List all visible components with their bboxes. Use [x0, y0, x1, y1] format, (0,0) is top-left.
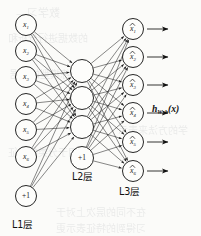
connection-edge [34, 32, 72, 63]
edges-input-to-hidden [30, 32, 76, 188]
connection-edge [34, 107, 74, 149]
output-arrows [147, 29, 168, 171]
hypothesis-subscript: W, b [157, 109, 168, 115]
node-label: +1 [22, 191, 30, 200]
connection-edge [36, 81, 70, 94]
node-y4: x4 [123, 103, 144, 124]
autoencoder-diagram: 数学习—的数据进行分析和训练模型的数据学的方法来表示用于分类的特征在不同的层次上… [0, 0, 201, 236]
node-y5: x5 [123, 132, 144, 153]
node-x5: x5 [16, 120, 37, 141]
node-h2 [71, 87, 94, 110]
node-b2: +1 [71, 147, 94, 170]
connection-edge [91, 36, 124, 63]
node-h3 [71, 116, 94, 139]
connection-edge [36, 55, 70, 67]
connection-edge [91, 92, 124, 119]
connection-edge [93, 146, 121, 155]
connection-edge [31, 35, 76, 116]
hypothesis-text: hW, b(x) [152, 103, 179, 115]
node-x4: x4 [16, 94, 37, 115]
layer-label-l1: L1层 [12, 219, 33, 230]
connection-edge [93, 130, 121, 138]
connection-edge [89, 66, 126, 117]
node-y6: x6 [123, 161, 144, 182]
node-label: +1 [78, 153, 86, 162]
node-y3: x3 [123, 75, 144, 96]
connection-edge [33, 137, 74, 188]
connection-edge [93, 60, 121, 68]
node-subscript: 1 [134, 29, 136, 34]
node-subscript: 1 [27, 25, 29, 30]
node-y2: x2 [123, 47, 144, 68]
hypothesis-label: hW, b(x) [152, 103, 179, 115]
node-x1: x1 [16, 15, 37, 36]
node-b1: +1 [16, 186, 37, 207]
node-x6: x6 [16, 147, 37, 168]
connection-edge [34, 80, 74, 122]
connection-edge [89, 81, 126, 133]
node-y1: x1 [123, 19, 144, 40]
node-h1 [71, 60, 94, 83]
connection-edge [91, 135, 124, 164]
layer-label-l3: L3层 [119, 186, 140, 197]
connection-edge [94, 161, 122, 168]
hypothesis-argument: (x) [168, 103, 179, 115]
connection-edge [30, 83, 76, 186]
node-x3: x3 [16, 67, 37, 88]
connection-edge [87, 39, 127, 116]
network-canvas: x1x2x3x4x5x6+1+1x1x2x3x4x5x6 L1层L2层L3层 h… [0, 0, 201, 236]
node-x2: x2 [16, 41, 37, 62]
connection-edge [31, 109, 75, 187]
connection-edge [91, 121, 124, 150]
connection-edge [89, 38, 126, 88]
layer-label-l2: L2层 [72, 171, 93, 182]
